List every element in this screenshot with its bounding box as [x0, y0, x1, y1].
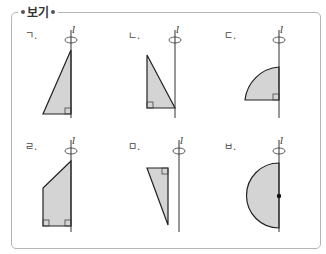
figures: lll lll [0, 0, 326, 254]
svg-text:l: l [72, 24, 75, 35]
svg-text:l: l [280, 135, 283, 146]
svg-text:l: l [180, 135, 183, 146]
svg-text:l: l [280, 24, 283, 35]
shape-2 [147, 55, 175, 108]
shape-3 [245, 67, 279, 100]
shape-1 [43, 50, 71, 114]
shape-5 [147, 168, 168, 225]
svg-text:l: l [176, 24, 179, 35]
shape-6 [247, 163, 279, 228]
shape-4 [43, 161, 71, 226]
svg-text:l: l [72, 135, 75, 146]
